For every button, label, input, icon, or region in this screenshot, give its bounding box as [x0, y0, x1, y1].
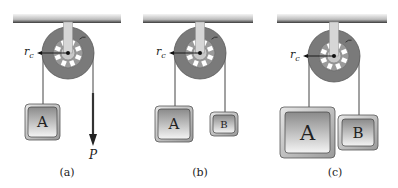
pulley-support-strap: [196, 22, 205, 53]
block-label: A: [299, 121, 316, 145]
panel-b: rcAB(b): [143, 14, 253, 179]
figure-canvas: rcAP(a)rcAB(b)rcAB(c): [0, 0, 398, 188]
radius-arrowhead-icon: [169, 51, 174, 55]
block-label: A: [36, 113, 48, 131]
ceiling-bar: [277, 14, 387, 23]
block-a: A: [280, 107, 335, 158]
panel-caption: (c): [328, 166, 343, 179]
radius-label: rc: [156, 45, 166, 60]
radius-arrowhead-icon: [303, 54, 308, 58]
radius-label-subscript: c: [295, 54, 300, 63]
block-label: B: [352, 124, 363, 142]
block-a: A: [25, 104, 60, 140]
panel-a: rcAP(a): [13, 14, 121, 179]
pulley-support-strap: [330, 22, 339, 56]
radius-label: rc: [24, 45, 34, 60]
pulley-diagram-figure: rcAP(a)rcAB(b)rcAB(c) (a) (b) (c) P: [0, 0, 398, 188]
block-b: B: [210, 112, 238, 136]
panel-c: rcAB(c): [277, 14, 387, 179]
radius-label-subscript: c: [29, 51, 34, 60]
radius-label: rc: [290, 48, 300, 63]
block-a: A: [155, 106, 193, 142]
panel-caption: (a): [59, 166, 74, 179]
force-arrow-head-icon: [89, 134, 97, 146]
block-label: B: [220, 119, 227, 130]
block-b: B: [338, 115, 378, 150]
ceiling-bar: [13, 14, 121, 23]
radius-label-subscript: c: [161, 51, 166, 60]
block-label: A: [168, 115, 180, 133]
pulley-support-strap: [64, 22, 73, 53]
force-label: P: [88, 148, 98, 162]
ceiling-bar: [143, 14, 253, 23]
radius-arrowhead-icon: [37, 51, 42, 55]
panel-caption: (b): [192, 166, 208, 179]
